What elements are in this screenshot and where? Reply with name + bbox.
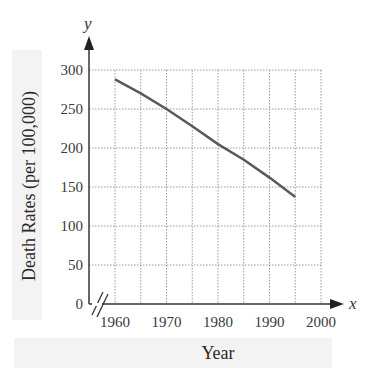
x-tick-labels: 19601970198019902000	[100, 314, 336, 330]
y-tick-label: 0	[76, 296, 84, 312]
y-tick-labels: 050100150200250300	[61, 62, 84, 312]
y-tick-label: 100	[61, 218, 84, 234]
line-chart: y x 050100150200250300 19601970198019902…	[0, 0, 378, 383]
x-axis-arrow-icon	[330, 299, 344, 309]
x-tick-label: 1990	[255, 314, 285, 330]
x-tick-label: 1960	[100, 314, 130, 330]
x-tick-label: 1970	[152, 314, 182, 330]
x-axis-label: Year	[201, 343, 234, 363]
y-axis-var: y	[82, 14, 92, 33]
x-axis-var: x	[348, 294, 357, 313]
y-tick-label: 50	[68, 257, 83, 273]
y-tick-label: 150	[61, 179, 84, 195]
x-tick-label: 2000	[306, 314, 336, 330]
y-axis-arrow-icon	[84, 36, 94, 50]
y-tick-label: 200	[61, 140, 84, 156]
y-axis-label: Death Rates (per 100,000)	[19, 91, 40, 281]
series-line	[115, 79, 295, 197]
x-tick-label: 1980	[203, 314, 233, 330]
x-label-band	[14, 338, 332, 368]
grid	[89, 70, 321, 304]
y-tick-label: 300	[61, 62, 84, 78]
y-tick-label: 250	[61, 101, 84, 117]
data-line	[115, 79, 295, 197]
